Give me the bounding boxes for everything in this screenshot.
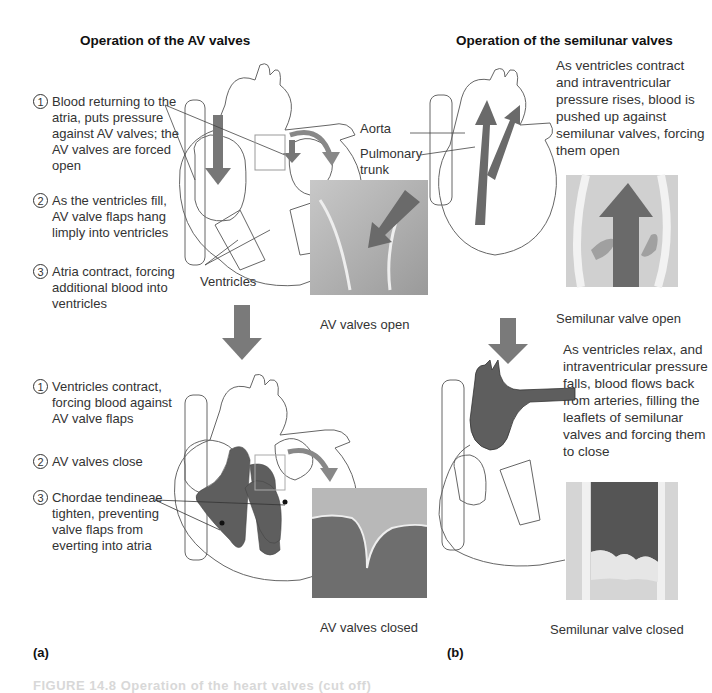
ventricles-label: Ventricles: [200, 274, 256, 290]
semilunar-valve-open-inset: [566, 175, 678, 287]
av-open-step-3: 3Atria contract, forcing additional bloo…: [33, 264, 183, 312]
semilunar-open-caption: Semilunar valve open: [556, 311, 681, 326]
panel-a-title: Operation of the AV valves: [80, 33, 250, 48]
av-valves-open-inset: [310, 180, 428, 295]
step-text: Atria contract, forcing additional blood…: [52, 264, 180, 312]
semilunar-valve-closed-inset: [566, 482, 678, 600]
figure-caption-cutoff: FIGURE 14.8 Operation of the heart valve…: [33, 678, 371, 693]
step-text: Chordae tendineae tighten, preventing va…: [52, 490, 180, 554]
aorta-label: Aorta: [360, 121, 391, 137]
heart-diagram-semilunar-closed: [430, 360, 570, 575]
step-number: 1: [33, 94, 48, 109]
panel-b-title: Operation of the semilunar valves: [456, 33, 673, 48]
pulmonary-trunk-label: Pulmonary trunk: [360, 146, 420, 178]
av-open-step-2: 2As the ventricles fill, AV valve flaps …: [33, 193, 183, 241]
av-valves-closed-caption: AV valves closed: [320, 620, 418, 635]
step-number: 1: [33, 379, 48, 394]
av-open-step-1: 1Blood returning to the atria, puts pres…: [33, 94, 183, 174]
semilunar-close-text: As ventricles relax, and intraventricula…: [563, 341, 712, 460]
step-text: Blood returning to the atria, puts press…: [52, 94, 180, 174]
av-close-step-2: 2AV valves close: [33, 454, 183, 470]
av-valves-open-caption: AV valves open: [320, 317, 409, 332]
step-text: AV valves close: [52, 454, 180, 470]
panel-a-label: (a): [33, 645, 49, 660]
step-text: As the ventricles fill, AV valve flaps h…: [52, 193, 180, 241]
panel-b-label: (b): [447, 645, 464, 660]
semilunar-open-text: As ventricles contract and intraventricu…: [556, 57, 706, 159]
heart-diagram-semilunar-open: [425, 65, 555, 255]
av-valves-closed-inset: [312, 488, 427, 598]
step-text: Ventricles contract, forcing blood again…: [52, 379, 180, 427]
step-number: 2: [33, 193, 48, 208]
av-close-step-3: 3Chordae tendineae tighten, preventing v…: [33, 490, 183, 554]
av-close-step-1: 1Ventricles contract, forcing blood agai…: [33, 379, 183, 427]
semilunar-closed-caption: Semilunar valve closed: [550, 622, 684, 637]
down-arrow-icon: [222, 305, 262, 365]
step-number: 2: [33, 454, 48, 469]
step-number: 3: [33, 264, 48, 279]
step-number: 3: [33, 490, 48, 505]
